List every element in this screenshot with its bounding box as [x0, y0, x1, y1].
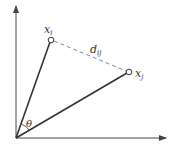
- label-xj: xj: [135, 67, 144, 81]
- label-dij: dij: [90, 43, 102, 57]
- label-xi: xi: [44, 23, 52, 37]
- vector-xi: [16, 42, 50, 138]
- point-xi: [48, 37, 54, 43]
- vector-diagram: xi dij xj θ: [0, 0, 175, 150]
- label-theta: θ: [26, 118, 32, 129]
- vector-xj: [16, 73, 127, 138]
- point-xj: [126, 69, 132, 75]
